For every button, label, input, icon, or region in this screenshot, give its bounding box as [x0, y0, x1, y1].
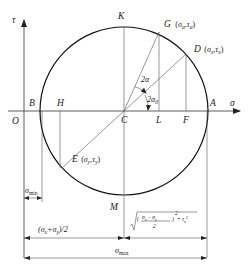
point-G-label: G (σα,τα)	[164, 19, 196, 30]
point-C-label: C	[121, 115, 128, 125]
point-A-label: A	[209, 98, 216, 108]
origin-label: O	[12, 116, 19, 126]
sigma-min-label: σmin	[25, 186, 38, 196]
point-L-label: L	[155, 115, 161, 125]
angle-2alpha-label: 2α	[141, 75, 150, 84]
tau-label: τ	[12, 15, 16, 25]
point-M-label: M	[109, 202, 119, 212]
svg-text:2: 2	[153, 223, 156, 229]
point-E-label: E (σy,τy)	[71, 154, 101, 165]
svg-text:(: (	[137, 216, 140, 223]
point-K-label: K	[117, 11, 125, 21]
svg-text:τx2: τx2	[182, 215, 188, 224]
mohr-circle-diagram: τ σ O B H K C L F A M G (σα,τα) D (σx,τx…	[0, 0, 248, 272]
sigma-label: σ	[230, 98, 235, 108]
point-D-label: D (σx,τx)	[193, 44, 224, 55]
svg-text:+: +	[177, 216, 181, 222]
point-B-label: B	[29, 98, 35, 108]
svg-text:σx − σy: σx − σy	[142, 214, 157, 222]
point-H-label: H	[56, 98, 65, 108]
svg-text:): )	[171, 216, 174, 223]
sigma-max-label: σmax	[115, 246, 129, 256]
mean-stress-label: (σx+σy)/2	[38, 225, 68, 235]
angle-2alpha0-label: 2α0	[147, 95, 158, 105]
point-F-label: F	[182, 115, 189, 125]
radius-formula: ( σx − σy 2 ) 2 + τx2	[130, 210, 197, 230]
